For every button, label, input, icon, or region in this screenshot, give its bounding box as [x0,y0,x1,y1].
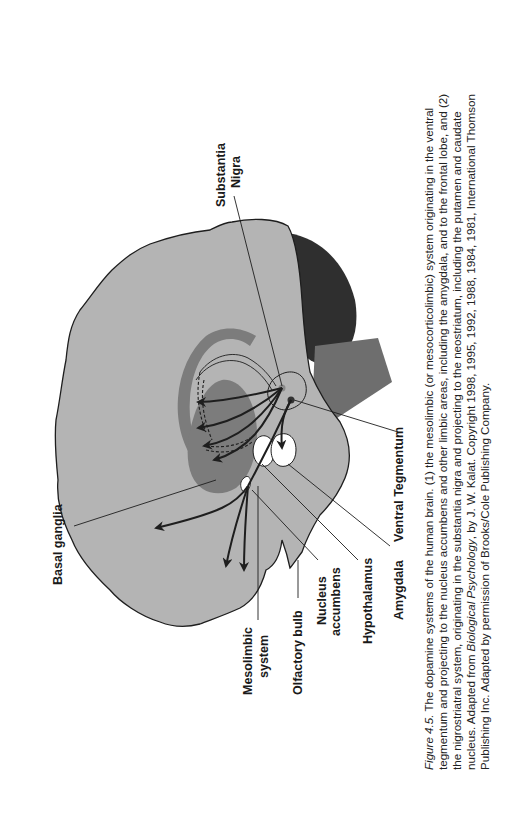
amygdala-shape [271,434,296,467]
label-system: system [257,635,271,678]
caption-line-3: the nigrostriatral system, originating i… [450,111,463,770]
label-nucleus: Nucleus [315,576,329,625]
label-basal-ganglia: Basal ganglia [51,503,65,585]
label-substantia: Substantia [214,142,228,207]
label-olfactory-bulb: Olfactory bulb [291,610,305,695]
caption-line-5: Publishing Inc. Adapted by permission of… [478,383,491,770]
label-hypothalamus: Hypothalamus [361,558,375,644]
label-mesolimbic: Mesolimbic [241,627,255,695]
label-amygdala: Amygdala [392,559,406,620]
caption-line-1: Figure 4.5. The dopamine systems of the … [422,108,435,770]
label-nigra: Nigra [229,155,243,188]
figure-caption: Figure 4.5. The dopamine systems of the … [422,94,491,770]
label-accumbens: accumbens [329,567,343,636]
brain-diagram [55,196,398,626]
dopamine-systems-figure: Substantia Nigra Basal ganglia Mesolimbi… [0,0,512,821]
label-ventral-tegmentum: Ventral Tegmentum [392,427,406,542]
caption-line-2: tegmentum and projecting to the nucleus … [436,94,449,770]
caption-line-4: nucleus. Adapted from Biological Psychol… [464,94,477,770]
